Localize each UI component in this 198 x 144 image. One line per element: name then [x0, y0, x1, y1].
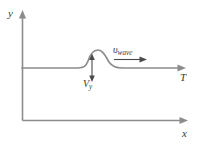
transverse-velocity-subscript: y — [89, 83, 92, 91]
wave-diagram: y x T Vy υwave — [0, 0, 198, 144]
y-axis-label: y — [8, 8, 13, 19]
wave-velocity-arrowhead-icon — [140, 57, 148, 63]
wave-velocity-arrow — [114, 57, 147, 63]
transverse-velocity-label: Vy — [83, 79, 92, 91]
x-axis-arrowhead-icon — [180, 117, 189, 124]
wave-axis-label: T — [180, 72, 186, 83]
x-axis — [23, 117, 189, 124]
diagram-canvas — [0, 0, 198, 144]
wave-velocity-subscript: wave — [118, 49, 133, 57]
x-axis-label: x — [182, 128, 187, 139]
y-axis-arrowhead-icon — [19, 10, 26, 19]
y-axis — [19, 10, 26, 121]
wave-velocity-label: υwave — [113, 45, 132, 57]
wave-pulse-curve — [22, 50, 186, 72]
wave-path — [22, 50, 179, 68]
